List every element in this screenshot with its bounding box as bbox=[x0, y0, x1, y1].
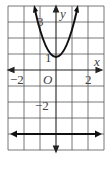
origin-label: O bbox=[43, 72, 53, 87]
x-tick-2: 2 bbox=[85, 72, 92, 87]
y-tick-3: 3 bbox=[37, 14, 44, 29]
x-axis-label: x bbox=[93, 54, 100, 69]
y-axis-label: y bbox=[58, 6, 66, 21]
y-tick-1: 1 bbox=[45, 50, 52, 65]
coordinate-graph: 3 y 1 x −2 O 2 −2 bbox=[0, 0, 110, 169]
y-tick-neg2: −2 bbox=[35, 98, 49, 113]
x-tick-neg2: −2 bbox=[10, 72, 24, 87]
